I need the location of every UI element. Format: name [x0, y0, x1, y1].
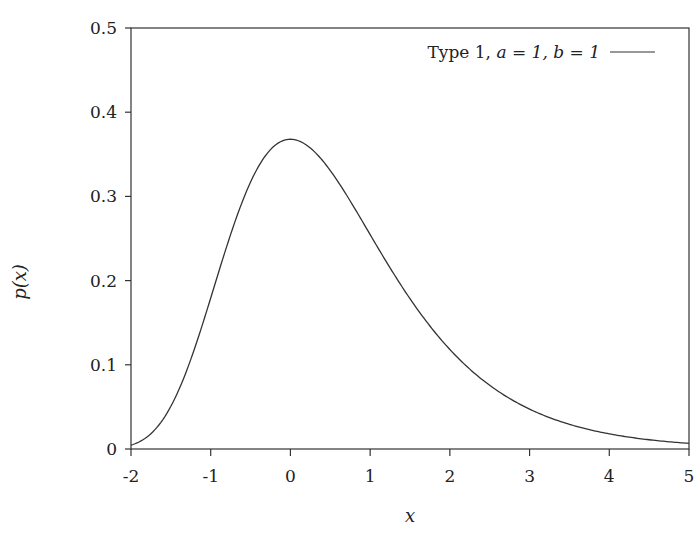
legend-entry-label: Type 1, a = 1, b = 1: [428, 42, 600, 62]
x-tick-label: -1: [202, 466, 219, 486]
y-axis-ticks: 00.10.20.30.40.5: [90, 18, 131, 459]
chart: 00.10.20.30.40.5 -2-1012345 Type 1, a = …: [0, 0, 700, 535]
y-tick-label: 0.3: [90, 186, 117, 206]
x-tick-label: -2: [123, 466, 140, 486]
legend: Type 1, a = 1, b = 1: [428, 42, 655, 62]
series-line-type1: [131, 139, 689, 445]
y-tick-label: 0: [106, 439, 117, 459]
y-tick-label: 0.5: [90, 18, 117, 38]
y-tick-label: 0.2: [90, 271, 117, 291]
x-tick-label: 4: [604, 466, 615, 486]
y-tick-label: 0.4: [90, 102, 117, 122]
x-tick-label: 1: [365, 466, 376, 486]
y-tick-label: 0.1: [90, 355, 117, 375]
x-tick-label: 0: [285, 466, 296, 486]
x-axis-ticks: -2-1012345: [123, 449, 695, 486]
x-tick-label: 3: [524, 466, 535, 486]
x-axis-label: x: [405, 505, 415, 526]
x-tick-label: 5: [684, 466, 695, 486]
x-tick-label: 2: [444, 466, 455, 486]
plot-frame: [131, 28, 689, 449]
y-axis-label: p(x): [9, 264, 30, 300]
series-curve: [131, 139, 689, 445]
axes-box: [131, 28, 689, 449]
